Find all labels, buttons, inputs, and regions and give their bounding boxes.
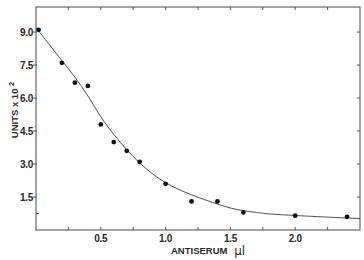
x-axis-title: ANTISERUM μl xyxy=(171,244,245,258)
data-point xyxy=(60,60,65,65)
plot-border xyxy=(36,7,360,230)
y-axis-exponent: 2 xyxy=(7,82,16,86)
x-axis-title-text: ANTISERUM xyxy=(171,245,228,256)
data-point xyxy=(293,213,298,218)
data-point xyxy=(72,80,77,85)
data-point xyxy=(215,199,220,204)
y-tick-label: 6.0 xyxy=(20,93,34,104)
y-tick-label: 9.0 xyxy=(20,27,34,38)
data-point xyxy=(163,181,168,186)
data-points-layer xyxy=(36,27,349,219)
fitted-curve xyxy=(36,28,360,219)
y-axis-title-text: UNITS x 10 xyxy=(9,89,20,139)
x-tick-label: 1.5 xyxy=(224,233,238,244)
y-tick-label: 3.0 xyxy=(20,159,34,170)
x-tick-label: 2.0 xyxy=(289,233,303,244)
y-tick-label: 1.5 xyxy=(20,192,34,203)
data-point xyxy=(189,199,194,204)
y-tick-label: 7.5 xyxy=(20,60,34,71)
x-axis-unit: μl xyxy=(234,244,245,258)
x-tick-label: 1.0 xyxy=(159,233,173,244)
fitted-curve-layer xyxy=(36,28,360,219)
data-point xyxy=(345,214,350,219)
data-point xyxy=(111,140,116,145)
y-tick-label: 4.5 xyxy=(20,126,34,137)
data-point xyxy=(98,122,103,127)
x-tick-label: 0.5 xyxy=(94,233,108,244)
data-point xyxy=(85,84,90,89)
data-point xyxy=(36,27,41,32)
tick-labels: 0.51.01.52.01.53.04.56.07.59.0 xyxy=(20,27,302,244)
y-axis-title: UNITS x 10 2 xyxy=(7,82,20,138)
plot-frame xyxy=(36,7,360,230)
data-point xyxy=(124,148,129,153)
antiserum-titration-chart: 0.51.01.52.01.53.04.56.07.59.0 ANTISERUM… xyxy=(0,0,364,260)
data-point xyxy=(241,210,246,215)
data-point xyxy=(137,159,142,164)
